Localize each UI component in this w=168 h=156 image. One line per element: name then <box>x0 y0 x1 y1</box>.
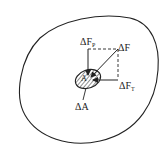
label-force-total: ΔF <box>118 43 130 53</box>
total-force-line <box>91 49 118 77</box>
label-force-tangential: ΔFT <box>119 81 135 92</box>
label-point: A <box>81 75 87 83</box>
label-force-normal: ΔFP <box>80 37 95 48</box>
area-leader-line <box>83 88 86 100</box>
diagram-canvas: ΔFP ΔF ΔFT ΔA A <box>0 0 168 156</box>
label-area: ΔA <box>75 102 89 112</box>
